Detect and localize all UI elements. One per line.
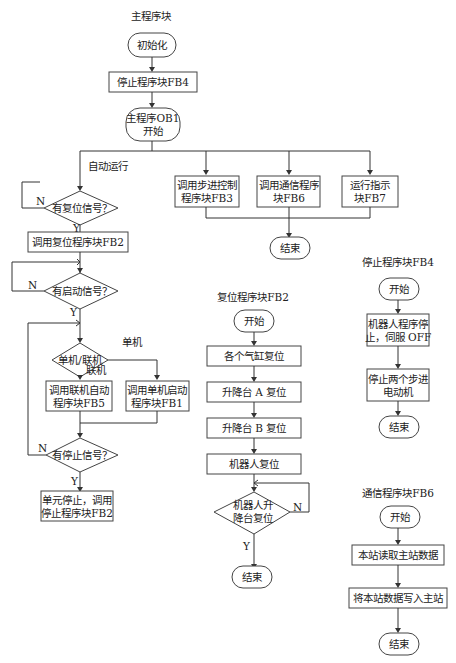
fb2-title: 复位程序块FB2 bbox=[217, 291, 289, 303]
unit-stop-line1: 单元停止，调用 bbox=[42, 494, 112, 506]
flowchart-canvas: 主程序块 初始化 停止程序块FB4 主程序OB1 开始 自动运行 调用步进控制 … bbox=[0, 0, 456, 663]
fb2-no-label: N bbox=[293, 501, 302, 513]
call-fb5-line1: 调用联机自动 bbox=[49, 384, 109, 396]
fb4-step2-line1: 停止两个步进 bbox=[368, 373, 429, 385]
fb2-decision-line1: 机器人升 bbox=[233, 499, 273, 511]
fb2-end-label: 结束 bbox=[242, 571, 263, 583]
reset-no-label: N bbox=[36, 195, 45, 207]
fb4-step1-line1: 机器人程序停 bbox=[368, 318, 428, 330]
fb2-decision-line2: 降台复位 bbox=[233, 512, 274, 524]
fb6-title: 通信程序块FB6 bbox=[362, 487, 434, 499]
fb4-end-label: 结束 bbox=[389, 421, 410, 433]
call-fb7-line1: 运行指示 bbox=[350, 179, 390, 191]
fb2-step2-label: 升降台 A 复位 bbox=[222, 386, 287, 398]
call-fb3-line2: 程序块FB3 bbox=[181, 192, 233, 204]
fb4-title: 停止程序块FB4 bbox=[362, 256, 434, 268]
call-fb1-line2: 程序块FB1 bbox=[131, 397, 183, 409]
fb6-step2-label: 将本站数据写入主站 bbox=[353, 592, 444, 604]
fb2-start-label: 开始 bbox=[244, 315, 265, 327]
main-end-label: 结束 bbox=[280, 242, 301, 254]
ob1-label-line1: 主程序OB1 bbox=[126, 112, 179, 124]
fb6-end-label: 结束 bbox=[389, 638, 410, 650]
reset-signal-label: 有复位信号？ bbox=[52, 202, 112, 214]
fb6-step1-label: 本站读取主站数据 bbox=[358, 549, 439, 561]
stop-signal-label: 有停止信号？ bbox=[52, 449, 112, 461]
fb4-start-label: 开始 bbox=[389, 283, 410, 295]
online-branch-label: 联机 bbox=[86, 364, 107, 376]
fb4-stop-flow: 停止程序块FB4 开始 机器人程序停 止，伺服 OFF 停止两个步进 电动机 结… bbox=[362, 256, 434, 438]
start-signal-label: 有启动信号？ bbox=[52, 285, 112, 297]
fb6-comm-flow: 通信程序块FB6 开始 本站读取主站数据 将本站数据写入主站 结束 bbox=[349, 487, 447, 655]
fb2-step3-label: 升降台 B 复位 bbox=[222, 422, 287, 434]
fb2-step4-label: 机器人复位 bbox=[229, 458, 280, 470]
start-no-label: N bbox=[28, 279, 37, 291]
stop-yes-label: Y bbox=[70, 475, 79, 487]
call-fb3-line1: 调用步进控制 bbox=[177, 179, 237, 191]
auto-run-label: 自动运行 bbox=[88, 160, 129, 172]
fb4-step1-line2: 止，伺服 OFF bbox=[365, 331, 432, 343]
single-branch-label: 单机 bbox=[122, 336, 143, 348]
init-label: 初始化 bbox=[137, 39, 168, 51]
fb2-yes-label: Y bbox=[242, 540, 251, 552]
fb6-start-label: 开始 bbox=[390, 511, 411, 523]
main-program-title: 主程序块 bbox=[131, 10, 172, 22]
start-yes-label: Y bbox=[69, 306, 78, 318]
fb4-step2-line2: 电动机 bbox=[383, 386, 414, 398]
stop-fb4-label: 停止程序块FB4 bbox=[117, 76, 189, 88]
ob1-label-line2: 开始 bbox=[143, 125, 164, 137]
call-fb6-line1: 调用通信程序 bbox=[259, 179, 319, 191]
call-fb1-line1: 调用单机启动 bbox=[127, 384, 187, 396]
fb2-reset-flow: 复位程序块FB2 开始 各个气缸复位 升降台 A 复位 升降台 B 复位 机器人… bbox=[207, 291, 309, 588]
call-fb7-line2: 块FB7 bbox=[354, 192, 386, 204]
unit-stop-line2: 停止程序块FB2 bbox=[41, 507, 113, 519]
call-fb2-label: 调用复位程序块FB2 bbox=[32, 236, 124, 248]
fb2-step1-label: 各个气缸复位 bbox=[224, 350, 285, 362]
stop-no-label: N bbox=[38, 442, 47, 454]
call-fb5-line2: 程序块FB5 bbox=[53, 397, 105, 409]
call-fb6-line2: 块FB6 bbox=[273, 192, 305, 204]
main-program-flow: 主程序块 初始化 停止程序块FB4 主程序OB1 开始 自动运行 调用步进控制 … bbox=[12, 10, 398, 521]
